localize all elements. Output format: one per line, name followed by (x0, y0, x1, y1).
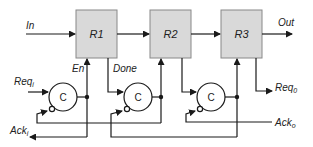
req-i-main: Req (14, 76, 32, 87)
req-o-sub: 0 (293, 87, 297, 94)
register-r3-label: R3 (221, 28, 262, 40)
register-r1-label: R1 (76, 28, 117, 40)
ack-i-sub: i (27, 130, 29, 137)
ack-i-label: Acki (10, 126, 28, 137)
c1-invert-bubble (49, 106, 54, 111)
c3-invert-bubble (197, 106, 202, 111)
req-o-main: Req (275, 82, 293, 93)
ack-o-main: Ack (275, 117, 292, 128)
register-r2-label: R2 (150, 28, 191, 40)
in-label: In (26, 21, 34, 31)
ack-o-label: Acko (275, 118, 296, 129)
ack-i-main: Ack (10, 125, 27, 136)
c-element-1-label: C (53, 92, 73, 103)
req-o-label: Req0 (275, 83, 297, 94)
ack-o-sub: o (292, 122, 296, 129)
c2-invert-bubble (124, 106, 129, 111)
c-element-3-label: C (201, 92, 221, 103)
done-label: Done (113, 64, 137, 74)
c-element-2-label: C (128, 92, 148, 103)
req-i-label: Reqi (14, 77, 34, 88)
req-o-wire (256, 58, 272, 91)
req-i-sub: i (32, 81, 34, 88)
ack-c2-to-c1-wire (37, 111, 161, 123)
out-label: Out (278, 18, 294, 28)
en-label: En (72, 64, 84, 74)
pipeline-diagram (0, 0, 313, 147)
done-r2-wire (182, 58, 196, 92)
ack-c3-to-c2-wire (111, 111, 237, 137)
ack-o-wire (186, 111, 272, 122)
